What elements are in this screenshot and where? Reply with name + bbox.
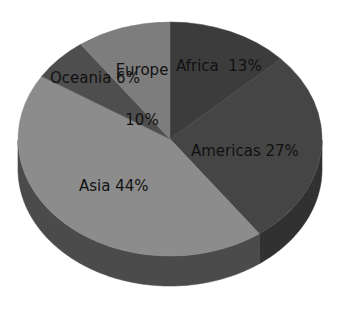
pie-chart-canvas: [0, 0, 339, 310]
pie-chart: Africa 13% Americas 27% Asia 44% Oceania…: [0, 0, 339, 310]
